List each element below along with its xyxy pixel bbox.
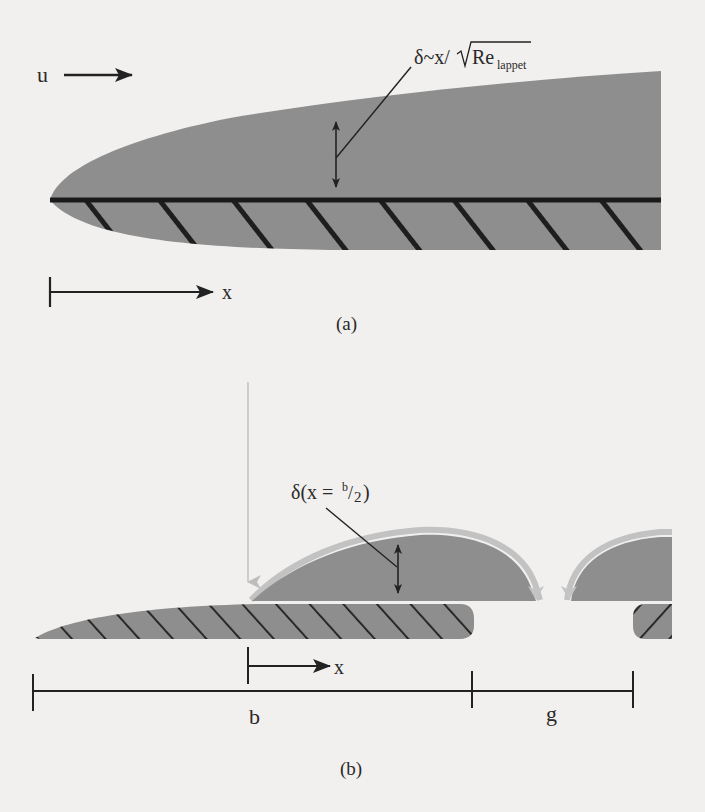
x-axis-label: x xyxy=(222,281,232,303)
svg-text:/: / xyxy=(348,483,353,503)
panel-b: δ(x = b / 2 ) x b g (b) xyxy=(33,382,672,780)
svg-text:2: 2 xyxy=(354,489,362,505)
span-g-label: g xyxy=(546,701,557,726)
x-axis-label-b: x xyxy=(334,656,344,678)
flow-arrow: u xyxy=(37,62,132,87)
lappet-body-b-hatched xyxy=(35,604,474,639)
caption-a: (a) xyxy=(336,313,357,335)
thickness-formula-a: δ~x/ Re lappet xyxy=(414,42,531,72)
svg-text:Re: Re xyxy=(472,46,494,68)
figure: u δ~x/ Re lappet x xyxy=(0,0,705,812)
dimension-bar: b g xyxy=(33,671,633,729)
svg-text:): ) xyxy=(363,481,370,504)
span-b-label: b xyxy=(249,704,260,729)
x-axis-a: x xyxy=(50,277,232,307)
flow-velocity-label: u xyxy=(37,62,48,87)
svg-text:δ(x =: δ(x = xyxy=(291,481,333,504)
lappet-body-hatched xyxy=(50,200,661,250)
caption-b: (b) xyxy=(340,758,362,780)
next-lappet-hatched xyxy=(633,604,672,639)
svg-text:δ~x/: δ~x/ xyxy=(414,46,450,68)
svg-text:lappet: lappet xyxy=(497,58,527,72)
x-axis-b: x xyxy=(248,647,344,684)
boundary-layer-blob-2 xyxy=(571,537,672,601)
panel-a: u δ~x/ Re lappet x xyxy=(37,42,661,335)
boundary-layer-region xyxy=(50,71,661,200)
thickness-formula-b: δ(x = b / 2 ) xyxy=(291,480,370,505)
